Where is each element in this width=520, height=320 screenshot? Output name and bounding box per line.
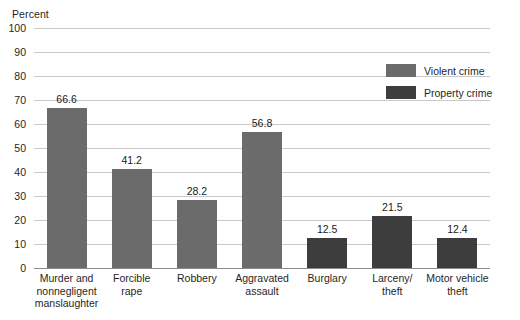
bar-group[interactable]: 41.2 [112,28,152,268]
bar-value-label: 21.5 [382,201,402,213]
bar-group[interactable]: 28.2 [177,28,217,268]
bar[interactable] [437,238,477,268]
x-axis-category-label: Burglary [295,272,360,285]
y-axis-tick-label: 50 [14,142,26,154]
bar-value-label: 12.4 [447,223,467,235]
bar[interactable] [177,200,217,268]
y-axis-tick-label: 90 [14,46,26,58]
bar[interactable] [112,169,152,268]
bar-group[interactable]: 12.5 [307,28,347,268]
gridline [34,268,490,269]
bar-value-label: 66.6 [56,93,76,105]
y-axis-tick-label: 30 [14,190,26,202]
y-axis-tick-label: 10 [14,238,26,250]
y-axis-tick-label: 100 [8,22,26,34]
y-axis-tick-labels: 0102030405060708090100 [0,28,30,268]
legend-swatch [386,86,416,99]
bar[interactable] [242,132,282,268]
bar-value-label: 12.5 [317,223,337,235]
x-axis-category-label: Forciblerape [99,272,164,297]
x-axis-category-label: Robbery [164,272,229,285]
bar[interactable] [307,238,347,268]
legend-label: Property crime [424,87,492,99]
bar-chart: Percent 0102030405060708090100 66.641.22… [0,0,520,320]
bar-group[interactable]: 56.8 [242,28,282,268]
bar-group[interactable]: 66.6 [47,28,87,268]
legend-label: Violent crime [424,65,485,77]
y-axis-tick-label: 40 [14,166,26,178]
bar[interactable] [372,216,412,268]
legend-swatch [386,64,416,77]
y-axis-title: Percent [12,8,49,20]
x-axis-category-label: Motor vehicletheft [425,272,490,297]
y-axis-tick-label: 0 [20,262,26,274]
bar-value-label: 56.8 [252,117,272,129]
x-axis-category-label: Murder andnonnegligentmanslaughter [34,272,99,310]
x-axis-category-label: Larceny/theft [360,272,425,297]
bar[interactable] [47,108,87,268]
bar-value-label: 28.2 [187,185,207,197]
legend-item[interactable]: Property crime [386,84,516,101]
x-axis-category-label: Aggravatedassault [229,272,294,297]
x-axis-category-labels: Murder andnonnegligentmanslaughterForcib… [34,272,490,318]
bar-value-label: 41.2 [121,154,141,166]
y-axis-tick-label: 70 [14,94,26,106]
y-axis-tick-label: 20 [14,214,26,226]
legend-item[interactable]: Violent crime [386,62,516,79]
legend: Violent crimeProperty crime [386,62,516,106]
y-axis-tick-label: 80 [14,70,26,82]
y-axis-tick-label: 60 [14,118,26,130]
